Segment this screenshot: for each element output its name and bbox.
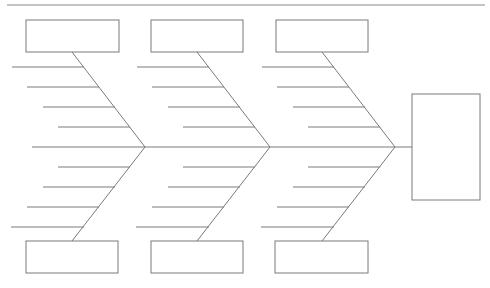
category-box-top-3[interactable] bbox=[276, 20, 368, 52]
bone-top-1 bbox=[72, 52, 145, 147]
category-box-bottom-1[interactable] bbox=[26, 241, 118, 273]
bone-top-3 bbox=[322, 52, 395, 147]
bone-top-2 bbox=[197, 52, 270, 147]
fishbone-diagram bbox=[0, 0, 490, 288]
category-box-bottom-2[interactable] bbox=[151, 241, 243, 273]
category-box-top-1[interactable] bbox=[26, 20, 119, 52]
category-box-top-2[interactable] bbox=[151, 20, 243, 52]
category-box-bottom-3[interactable] bbox=[275, 241, 368, 273]
effect-box[interactable] bbox=[412, 94, 480, 200]
